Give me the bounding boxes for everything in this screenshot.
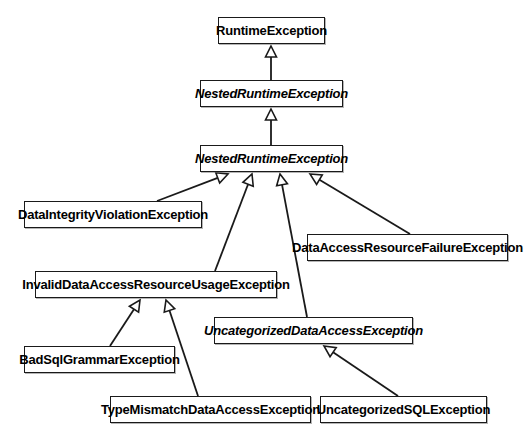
generalization-arrowhead (310, 174, 322, 184)
class-name-label: NestedRuntimeException (190, 152, 353, 165)
class-name-label: UncategorizedDataAccessException (199, 324, 428, 337)
generalization-line (215, 184, 248, 271)
class-box-invalid-data-access-resource-usage-exception: InvalidDataAccessResourceUsageException (35, 271, 277, 298)
generalization-arrowhead (129, 300, 140, 312)
class-name-label: RuntimeException (211, 24, 332, 37)
class-box-nested-runtime-exception-lower: NestedRuntimeException (200, 145, 343, 172)
class-name-label: UncategorizedSQLException (312, 403, 495, 416)
class-box-runtime-exception: RuntimeException (218, 17, 325, 44)
class-name-label: InvalidDataAccessResourceUsageException (17, 278, 295, 291)
class-name-label: NestedRuntimeException (190, 87, 353, 100)
class-name-label: DataIntegrityViolationException (13, 208, 213, 221)
class-box-nested-runtime-exception-upper: NestedRuntimeException (200, 80, 343, 107)
generalization-arrowhead (277, 174, 288, 186)
generalization-invalid-data-access-resource-usage-exception-to-nested-runtime-exception-lower (215, 174, 253, 271)
class-name-label: BadSqlGrammarException (14, 353, 184, 366)
generalization-nested-runtime-exception-upper-to-runtime-exception (266, 46, 277, 80)
class-box-uncategorized-sql-exception: UncategorizedSQLException (320, 396, 487, 423)
uml-class-diagram: RuntimeExceptionNestedRuntimeExceptionNe… (0, 0, 528, 442)
generalization-nested-runtime-exception-lower-to-nested-runtime-exception-upper (266, 109, 277, 145)
generalization-line (333, 352, 398, 396)
generalization-line (110, 309, 134, 346)
generalization-arrowhead (266, 46, 277, 57)
generalization-arrowhead (164, 300, 174, 312)
class-box-type-mismatch-data-access-exception: TypeMismatchDataAccessException (110, 396, 311, 423)
generalization-bad-sql-grammar-exception-to-invalid-data-access-resource-usage-exception (110, 300, 140, 346)
generalization-line (157, 178, 218, 201)
class-box-data-integrity-violation-exception: DataIntegrityViolationException (24, 201, 202, 228)
generalization-arrowhead (324, 346, 336, 357)
generalization-line (319, 180, 410, 234)
generalization-arrowhead (216, 173, 228, 183)
generalization-arrowhead (243, 174, 253, 186)
class-box-bad-sql-grammar-exception: BadSqlGrammarException (24, 346, 175, 373)
class-box-data-access-resource-failure-exception: DataAccessResourceFailureException (307, 234, 508, 261)
class-name-label: DataAccessResourceFailureException (287, 241, 528, 254)
class-box-uncategorized-data-access-exception: UncategorizedDataAccessException (214, 317, 413, 344)
generalization-uncategorized-sql-exception-to-uncategorized-data-access-exception (324, 346, 398, 396)
generalization-data-access-resource-failure-exception-to-nested-runtime-exception-lower (310, 174, 410, 234)
generalization-data-integrity-violation-exception-to-nested-runtime-exception-lower (157, 173, 228, 201)
generalization-arrowhead (266, 109, 277, 120)
class-name-label: TypeMismatchDataAccessException (96, 403, 325, 416)
